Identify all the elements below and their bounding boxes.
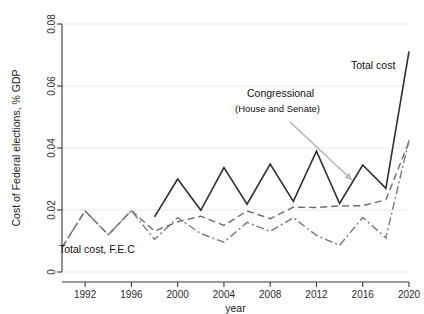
x-tick-label-1996: 1996 xyxy=(120,289,143,300)
x-tick-label-2016: 2016 xyxy=(352,289,375,300)
annotation-total-cost: Total cost xyxy=(351,59,395,71)
y-tick-label-0.06: 0.06 xyxy=(46,76,57,96)
y-tick-label-0.02: 0.02 xyxy=(46,200,57,220)
line-chart: 00.020.040.060.08 1992199620002004200820… xyxy=(0,0,424,314)
annotation-congressional-sub: (House and Senate) xyxy=(235,103,320,114)
y-tick-label-0.08: 0.08 xyxy=(46,14,57,34)
x-tick-label-2000: 2000 xyxy=(167,289,190,300)
chart-figure: 00.020.040.060.08 1992199620002004200820… xyxy=(0,0,424,314)
annotation-fec: Total cost, F.E.C xyxy=(59,243,135,255)
y-axis-title: Cost of Federal elections, % GDP xyxy=(10,70,22,227)
x-tick-label-1992: 1992 xyxy=(74,289,97,300)
annotation-congressional: Congressional xyxy=(247,87,314,99)
x-tick-label-2020: 2020 xyxy=(398,289,421,300)
chart-background xyxy=(0,0,424,314)
x-tick-label-2004: 2004 xyxy=(213,289,236,300)
x-tick-label-2012: 2012 xyxy=(305,289,328,300)
x-axis-title: year xyxy=(225,302,246,314)
y-tick-label-0.04: 0.04 xyxy=(46,138,57,158)
y-tick-label-0: 0 xyxy=(46,269,57,275)
x-tick-label-2008: 2008 xyxy=(259,289,282,300)
